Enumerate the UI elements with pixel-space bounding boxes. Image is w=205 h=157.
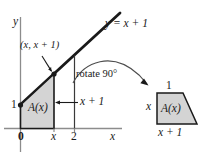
x-tick-label-x: x <box>51 131 56 143</box>
trapezoid-left-label: x <box>146 101 151 113</box>
trapezoid-bottom-label: x + 1 <box>158 127 182 139</box>
rotate-label: rotate 90° <box>76 69 117 80</box>
trapezoid-top-label: 1 <box>166 80 172 92</box>
line-equation-label: y = x + 1 <box>105 18 148 30</box>
x-tick-label-2: 2 <box>71 131 77 143</box>
point-x-x-plus-1 <box>51 71 56 76</box>
height-label: x + 1 <box>80 96 104 108</box>
x-tick-label-0: 0 <box>18 131 24 143</box>
region-label-left: A(x) <box>28 102 48 114</box>
x-axis-label: x <box>110 131 115 143</box>
figure-root: y x y = x + 1 (x, x + 1) A(x) x + 1 1 0 … <box>0 0 205 157</box>
point-coordinate-label: (x, x + 1) <box>20 40 59 51</box>
point-y-intercept <box>18 102 23 107</box>
y-intercept-tick-label: 1 <box>11 99 17 111</box>
y-axis-label: y <box>13 16 18 28</box>
region-label-right: A(x) <box>161 103 181 115</box>
point-leader-arrow <box>42 56 52 71</box>
